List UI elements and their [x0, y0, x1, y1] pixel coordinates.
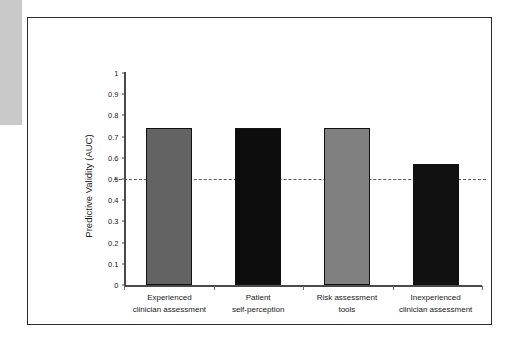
y-axis-tick-label: 0.6 — [108, 153, 121, 162]
bar[interactable] — [235, 128, 281, 285]
x-axis-tick-mark — [214, 286, 215, 290]
category-label-line: self-perception — [214, 304, 303, 316]
bar-slot — [303, 73, 392, 285]
y-axis-tick: 0.9 — [108, 90, 125, 99]
bar[interactable] — [324, 128, 370, 285]
y-axis-tick-label: 1 — [114, 69, 121, 78]
y-axis-tick: 1 — [114, 69, 125, 78]
bar[interactable] — [413, 164, 459, 285]
y-axis-tick-label: 0.4 — [108, 196, 121, 205]
y-axis-tick: 0.7 — [108, 132, 125, 141]
bar-slot — [391, 73, 480, 285]
x-axis-category-labels: Experiencedclinician assessmentPatientse… — [125, 292, 480, 315]
category-label-line: Experienced — [125, 292, 214, 304]
plot-area: 10.90.80.70.60.50.40.30.20.10 — [125, 73, 480, 285]
figure-frame: Predictive Validity (AUC) 10.90.80.70.60… — [27, 17, 492, 325]
category-label-line: clinician assessment — [391, 304, 480, 316]
y-axis-tick: 0.2 — [108, 238, 125, 247]
y-axis-tick-label: 0.9 — [108, 90, 121, 99]
category-label-line: Risk assessment — [303, 292, 392, 304]
x-axis-ticks — [124, 286, 482, 290]
x-axis-tick-mark — [393, 286, 394, 290]
category-label-line: Inexperienced — [391, 292, 480, 304]
y-axis-tick-label: 0.2 — [108, 238, 121, 247]
x-axis-category-label: Inexperiencedclinician assessment — [391, 292, 480, 315]
bar-slot — [125, 73, 214, 285]
y-axis-tick-label: 0 — [114, 281, 121, 290]
x-axis-tick-mark — [124, 286, 125, 290]
y-axis-tick-label: 0.1 — [108, 259, 121, 268]
x-axis-tick-mark — [482, 286, 483, 290]
y-axis-tick: 0.8 — [108, 111, 125, 120]
y-axis-tick: 0.3 — [108, 217, 125, 226]
x-axis-tick-mark — [303, 286, 304, 290]
y-axis-tick: 0.1 — [108, 259, 125, 268]
bar-slot — [214, 73, 303, 285]
y-axis-title: Predictive Validity (AUC) — [82, 111, 96, 261]
y-axis-tick: 0.4 — [108, 196, 125, 205]
category-label-line: tools — [303, 304, 392, 316]
y-axis-tick: 0.6 — [108, 153, 125, 162]
category-label-line: Patient — [214, 292, 303, 304]
category-label-line: clinician assessment — [125, 304, 214, 316]
y-axis-tick-label: 0.3 — [108, 217, 121, 226]
x-axis-category-label: Patientself-perception — [214, 292, 303, 315]
y-axis-tick-label: 0.8 — [108, 111, 121, 120]
bar[interactable] — [146, 128, 192, 285]
x-axis-category-label: Experiencedclinician assessment — [125, 292, 214, 315]
y-axis-tick-label: 0.7 — [108, 132, 121, 141]
bars-layer — [125, 73, 480, 285]
x-axis-category-label: Risk assessmenttools — [303, 292, 392, 315]
page-margin-strip — [0, 0, 22, 125]
